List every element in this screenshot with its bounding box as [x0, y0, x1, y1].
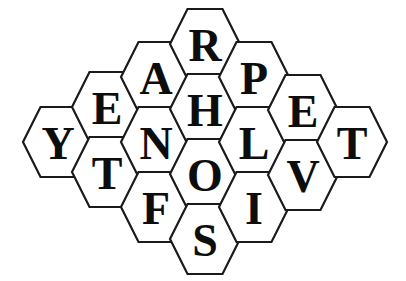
hex-cell-letter: E	[92, 83, 123, 134]
hex-cell-letter: E	[288, 86, 319, 137]
hex-cell-letter: I	[245, 183, 263, 234]
hex-cell-letter: P	[240, 53, 268, 104]
hex-grid: YETANFRHOSPLIEVT	[0, 0, 406, 281]
hex-cell-letter: H	[187, 85, 223, 136]
hex-cell-letter: T	[92, 148, 123, 199]
hex-cell-letter: R	[188, 20, 222, 71]
hex-cell-letter: A	[139, 53, 172, 104]
hex-cell-letter: L	[239, 118, 270, 169]
hex-cell-letter: S	[192, 215, 218, 266]
hex-cell-letter: O	[187, 150, 223, 201]
hex-cell-letter: Y	[41, 118, 74, 169]
hex-cell-letter: N	[139, 118, 172, 169]
hex-puzzle-canvas: YETANFRHOSPLIEVT	[0, 0, 406, 281]
hex-cell-letter: T	[337, 118, 368, 169]
hex-cell-letter: V	[286, 151, 319, 202]
hex-cell-letter: F	[142, 183, 170, 234]
